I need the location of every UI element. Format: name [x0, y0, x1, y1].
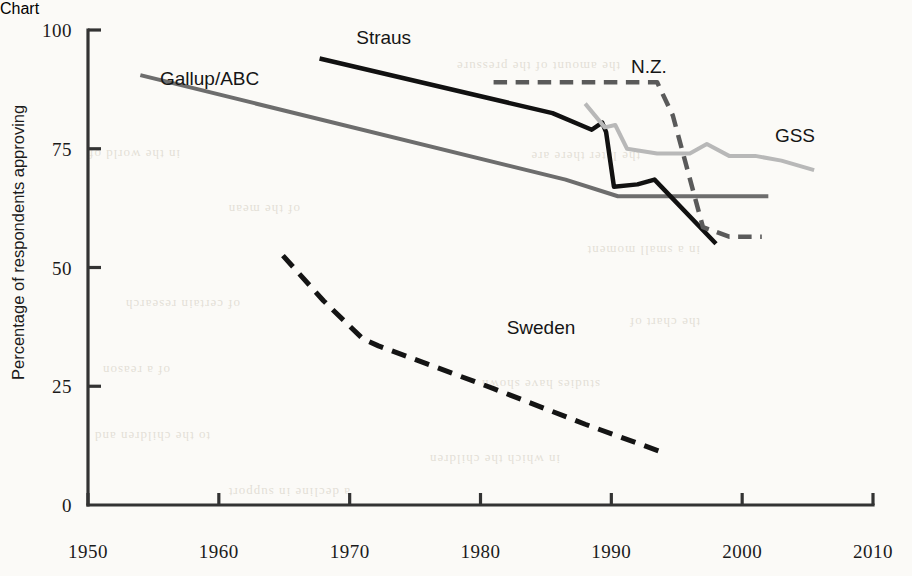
series-line-gallup-abc [140, 75, 768, 196]
y-tick-label: 50 [52, 258, 72, 279]
bleedthrough-text: a decline in support [228, 485, 350, 500]
y-tick-label: 25 [52, 376, 72, 397]
series-label-sweden: Sweden [507, 317, 576, 338]
series-line-sweden [283, 256, 664, 453]
chart-container: the amount of the pressurein the world o… [0, 0, 912, 576]
x-tick-label: 1950 [68, 541, 108, 562]
line-chart: the amount of the pressurein the world o… [0, 0, 912, 576]
x-tick-label: 2000 [722, 541, 762, 562]
bleedthrough-text: in a small moment [587, 243, 700, 258]
bleedthrough-text: the later there are [530, 149, 640, 164]
bleedthrough-text: the chart of [629, 315, 700, 330]
y-axis-title: Percentage of respondents approving [9, 105, 27, 380]
series-label-gallup-abc: Gallup/ABC [160, 68, 259, 89]
y-tick-label: 100 [42, 20, 72, 41]
bleedthrough-text: in the world of [88, 147, 180, 162]
series-label-straus: Straus [356, 27, 411, 48]
bleedthrough-text: of the mean [228, 202, 300, 217]
series-line-straus [320, 59, 716, 244]
x-tick-label: 1990 [591, 541, 631, 562]
x-tick-label: 1980 [461, 541, 501, 562]
series-label-n-z: N.Z. [631, 56, 667, 77]
x-tick-label: 1960 [199, 541, 239, 562]
y-tick-label: 0 [62, 495, 72, 516]
y-tick-label: 75 [52, 139, 72, 160]
x-tick-label: 2010 [853, 541, 893, 562]
bleedthrough-text: in which the children [429, 452, 560, 467]
bleedthrough-text: to the children and [94, 429, 210, 444]
bleedthrough-text: of certain research [125, 297, 240, 312]
y-axis-ticks: 0255075100 [42, 20, 101, 516]
series-label-gss: GSS [775, 125, 815, 146]
x-axis-ticks: 1950196019701980199020002010 [68, 493, 893, 562]
x-tick-label: 1970 [330, 541, 370, 562]
bleedthrough-text: of a reason [102, 363, 170, 378]
series-layer [140, 59, 814, 453]
bleedthrough-text: the amount of the pressure [456, 59, 620, 74]
bleedthrough-text: studies have shown [481, 377, 600, 392]
